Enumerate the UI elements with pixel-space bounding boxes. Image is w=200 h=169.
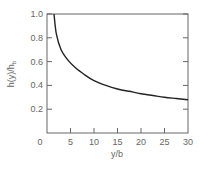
chart-figure: 0.20.40.60.81.0 051015202530 y/b h(y)/hb — [0, 0, 200, 169]
x-axis-label: y/b — [111, 149, 123, 159]
plot-frame — [47, 14, 188, 133]
x-tick-label: 30 — [183, 137, 193, 147]
y-tick-label: 1.0 — [30, 9, 43, 19]
x-tick-label: 0 — [37, 137, 42, 147]
x-tick-label: 20 — [136, 137, 146, 147]
y-tick-label: 0.6 — [30, 57, 43, 67]
y-axis-ticks: 0.20.40.60.81.0 — [30, 9, 188, 114]
y-axis-label: h(y)/hb — [6, 60, 17, 87]
y-tick-label: 0.4 — [30, 80, 43, 90]
x-tick-label: 15 — [112, 137, 122, 147]
y-tick-label: 0.8 — [30, 33, 43, 43]
x-tick-label: 25 — [159, 137, 169, 147]
data-curve — [54, 14, 188, 100]
x-axis-ticks: 051015202530 — [37, 128, 193, 147]
x-tick-label: 5 — [68, 137, 73, 147]
y-tick-label: 0.2 — [30, 104, 43, 114]
x-tick-label: 10 — [89, 137, 99, 147]
